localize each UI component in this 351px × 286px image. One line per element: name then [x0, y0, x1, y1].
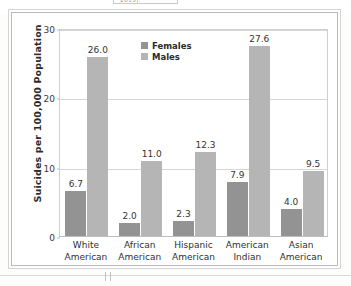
x-axis-tick-label-line: American [274, 252, 328, 264]
bar-value-label: 2.3 [176, 209, 190, 219]
bar-value-label: 2.0 [123, 211, 137, 221]
bar-value-label: 26.0 [88, 45, 108, 55]
x-axis-tick-label-line: Indian [220, 252, 274, 264]
legend-item-females: Females [141, 40, 192, 51]
x-axis-tick-label-line: American [59, 252, 113, 264]
cut-off-caption-box: 2013). [113, 0, 178, 4]
bar-males: 11.0 [141, 161, 162, 237]
x-axis-tick-labels: WhiteAmericanAfricanAmericanHispanicAmer… [59, 240, 328, 268]
x-axis-tick-label-line: American [167, 252, 221, 264]
bar-males: 26.0 [87, 57, 108, 237]
bar-females: 2.0 [119, 223, 140, 237]
x-axis-tick-label: AsianAmerican [274, 240, 328, 263]
x-axis-line [59, 236, 328, 237]
bar-value-label: 12.3 [195, 140, 215, 150]
page-bottom-tick-mark [105, 272, 111, 281]
x-axis-tick-label-line: White [59, 240, 113, 252]
x-axis-tick-label: WhiteAmerican [59, 240, 113, 263]
x-axis-tick-label: AmericanIndian [220, 240, 274, 263]
bar-value-label: 27.6 [249, 34, 269, 44]
y-axis-tick-mark [57, 238, 60, 239]
page-bottom-rule [0, 275, 351, 276]
chart-legend: Females Males [141, 40, 192, 62]
bar-males: 9.5 [303, 171, 324, 237]
plot-area: 0102030 6.726.02.011.02.312.37.927.64.09… [59, 29, 328, 237]
bar-females: 4.0 [281, 209, 302, 237]
legend-label-females: Females [152, 41, 192, 51]
figure-page: 2013). Suicides per 100,000 Population 0… [0, 0, 351, 286]
legend-swatch-icon-females [141, 42, 148, 49]
x-axis-tick-label: HispanicAmerican [167, 240, 221, 263]
bar-chart: Suicides per 100,000 Population 0102030 … [12, 13, 341, 269]
bar-value-label: 7.9 [230, 170, 244, 180]
x-axis-tick-label-line: Hispanic [167, 240, 221, 252]
bar-value-label: 4.0 [284, 197, 298, 207]
x-axis-tick-label-line: Asian [274, 240, 328, 252]
legend-item-males: Males [141, 51, 192, 62]
bar-value-label: 9.5 [306, 159, 320, 169]
y-axis-label: Suicides per 100,000 Population [32, 27, 43, 203]
figure-frame-inner: Suicides per 100,000 Population 0102030 … [11, 12, 338, 266]
x-axis-tick-label-line: American [220, 240, 274, 252]
cut-off-caption-text: 2013). [120, 0, 141, 3]
x-axis-tick-label: AfricanAmerican [113, 240, 167, 263]
bar-females: 6.7 [65, 191, 86, 237]
x-axis-tick-label-line: American [113, 252, 167, 264]
x-axis-tick-label-line: African [113, 240, 167, 252]
figure-frame-outer: Suicides per 100,000 Population 0102030 … [8, 9, 341, 269]
bar-males: 27.6 [249, 46, 270, 237]
bar-males: 12.3 [195, 152, 216, 237]
bar-series-container: 6.726.02.011.02.312.37.927.64.09.5 [60, 30, 327, 237]
legend-label-males: Males [152, 52, 180, 62]
bar-value-label: 11.0 [142, 149, 162, 159]
legend-swatch-icon-males [141, 53, 148, 60]
bar-value-label: 6.7 [69, 179, 83, 189]
bar-females: 7.9 [227, 182, 248, 237]
bar-females: 2.3 [173, 221, 194, 237]
